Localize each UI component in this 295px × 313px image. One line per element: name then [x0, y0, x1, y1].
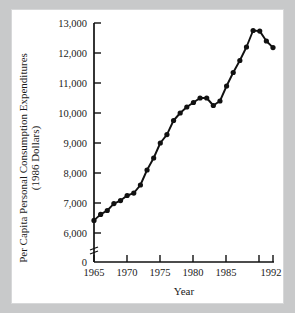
- y-tick-label-10000: 10,000: [58, 108, 87, 119]
- data-point: [164, 132, 169, 137]
- data-point: [171, 118, 176, 123]
- y-axis-tick-labels: 13,000 12,000 11,000 10,000 9,000 8,000 …: [58, 18, 87, 268]
- chart-area: Per Capita Personal Consumption Expendit…: [12, 10, 285, 305]
- data-point: [264, 38, 269, 43]
- data-point: [184, 104, 189, 109]
- y-tick-label-8000: 8,000: [63, 168, 87, 179]
- data-point: [197, 95, 202, 100]
- data-point: [244, 44, 249, 49]
- x-tick-label-1985: 1985: [216, 267, 237, 278]
- data-point: [251, 28, 256, 33]
- y-axis-title-group: Per Capita Personal Consumption Expendit…: [17, 53, 42, 263]
- x-tick-label-1965: 1965: [84, 267, 105, 278]
- data-point: [158, 140, 163, 145]
- data-point: [118, 198, 123, 203]
- y-tick-label-9000: 9,000: [63, 138, 87, 149]
- y-axis-title-line1: Per Capita Personal Consumption Expendit…: [17, 53, 29, 263]
- data-point: [237, 58, 242, 63]
- y-tick-label-7000: 7,000: [63, 198, 87, 209]
- x-tick-label-1975: 1975: [150, 267, 171, 278]
- y-tick-label-11000: 11,000: [59, 78, 88, 89]
- data-point: [204, 95, 209, 100]
- data-point: [91, 218, 96, 223]
- y-tick-label-12000: 12,000: [58, 48, 87, 59]
- y-tick-label-6000: 6,000: [63, 228, 87, 239]
- data-point: [217, 98, 222, 103]
- data-point: [98, 212, 103, 217]
- x-tick-label-1980: 1980: [183, 267, 204, 278]
- y-axis: [94, 23, 101, 262]
- x-tick-label-1992: 1992: [261, 267, 282, 278]
- data-point: [257, 29, 262, 34]
- data-point: [111, 201, 116, 206]
- data-point: [151, 155, 156, 160]
- data-point: [105, 208, 110, 213]
- data-points-group: [91, 28, 275, 223]
- data-point: [125, 193, 130, 198]
- data-point: [138, 182, 143, 187]
- data-point: [131, 191, 136, 196]
- data-point: [191, 100, 196, 105]
- x-tick-label-1970: 1970: [117, 267, 138, 278]
- data-series-line: [94, 31, 273, 221]
- y-axis-title-line2: (1986 Dollars): [29, 125, 42, 190]
- figure-frame: Per Capita Personal Consumption Expendit…: [11, 9, 284, 304]
- x-axis: [94, 255, 274, 262]
- data-point: [178, 110, 183, 115]
- data-point: [270, 45, 275, 50]
- data-point: [231, 70, 236, 75]
- data-point: [144, 167, 149, 172]
- x-axis-tick-labels: 1965 1970 1975 1980 1985 1992: [84, 267, 282, 278]
- y-tick-label-13000: 13,000: [58, 18, 87, 29]
- x-axis-title: Year: [174, 285, 195, 297]
- line-chart-svg: Per Capita Personal Consumption Expendit…: [12, 10, 285, 305]
- data-point: [224, 83, 229, 88]
- data-point: [211, 103, 216, 108]
